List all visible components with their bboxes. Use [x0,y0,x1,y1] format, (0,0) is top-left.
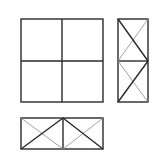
three-view-diagram [0,0,155,164]
top-view-outline [21,118,103,149]
top-view [21,118,103,149]
front-view [21,19,103,102]
side-view [118,19,148,102]
